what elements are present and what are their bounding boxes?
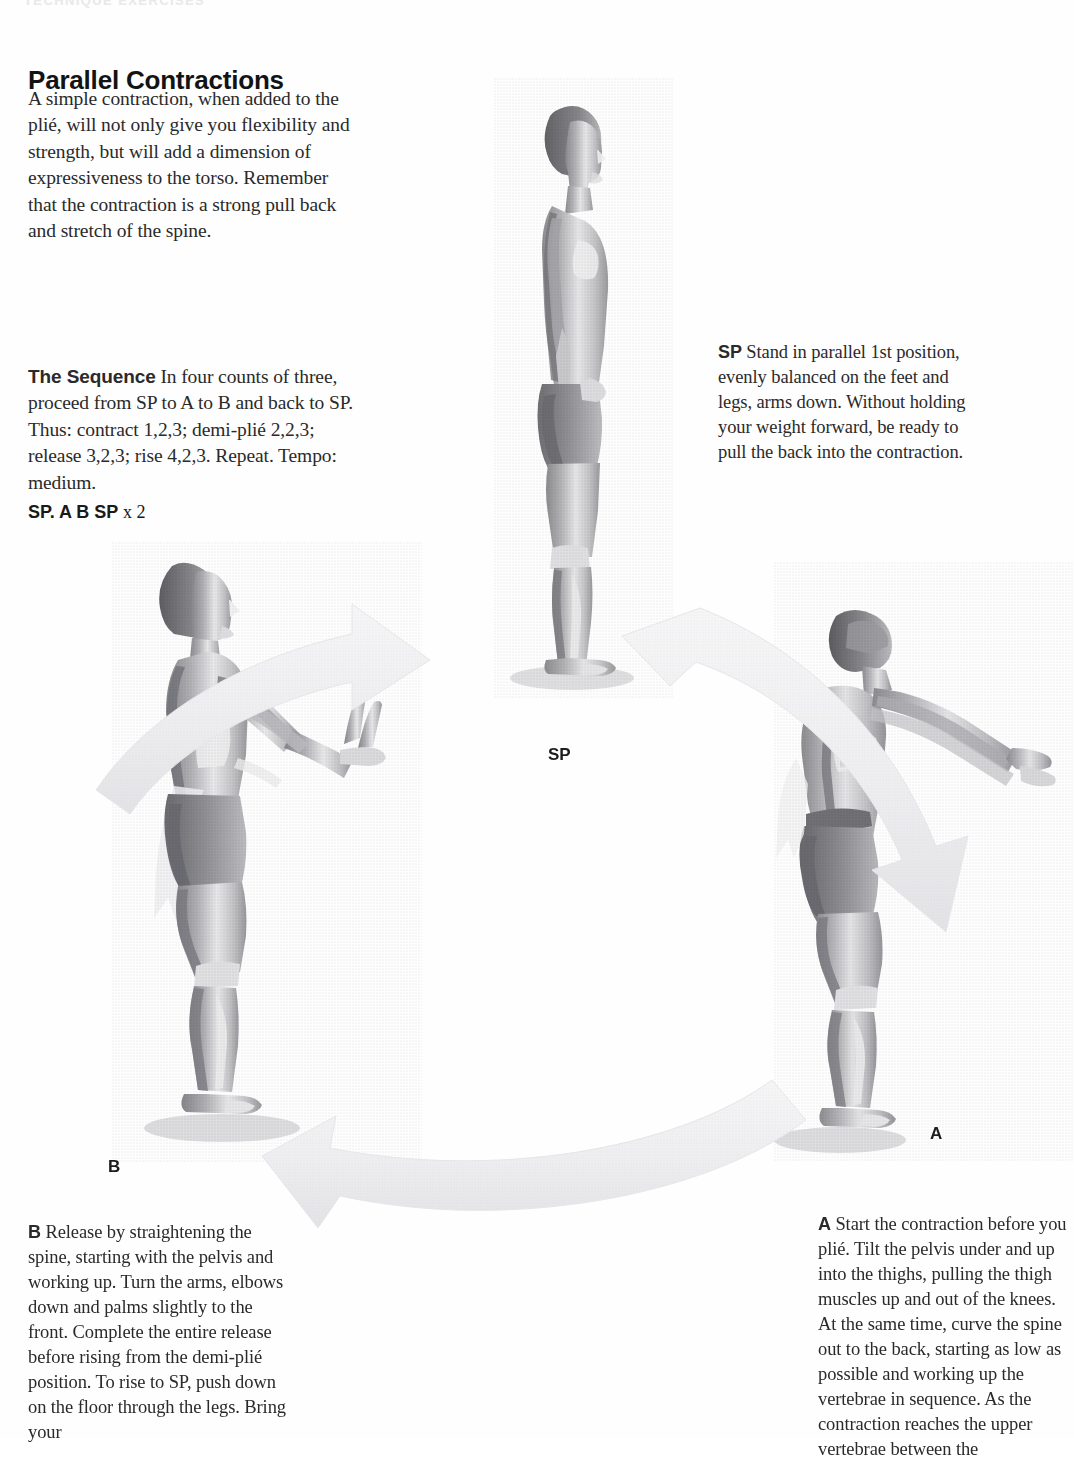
caption-b-body: Release by straightening the spine, star… [28,1222,286,1442]
caption-a-body: Start the contraction before you plié. T… [818,1214,1066,1459]
figure-sp-standing [494,78,674,698]
sequence-shorthand: SP. A B SP x 2 [28,502,145,523]
position-label-b: B [108,1157,120,1177]
position-label-a: A [930,1124,942,1144]
caption-sp-lead: SP [718,342,742,362]
sequence-shorthand-rest: x 2 [118,502,145,522]
caption-b: B Release by straightening the spine, st… [28,1220,290,1445]
sequence-lead: The Sequence [28,366,156,387]
position-label-sp: SP [548,745,571,765]
caption-b-lead: B [28,1222,41,1242]
figure-b-release [112,542,422,1162]
running-head: TECHNIQUE EXERCISES [24,0,205,8]
sequence-shorthand-bold: SP. A B SP [28,502,118,522]
sequence-paragraph: The Sequence In four counts of three, pr… [28,364,368,496]
intro-paragraph: A simple contraction, when added to the … [28,86,360,244]
figure-a-contraction [774,562,1074,1162]
caption-a: A Start the contraction before you plié.… [818,1212,1074,1459]
caption-sp-body: Stand in parallel 1st position, evenly b… [718,342,966,462]
caption-sp: SP Stand in parallel 1st position, evenl… [718,340,986,465]
caption-a-lead: A [818,1214,831,1234]
